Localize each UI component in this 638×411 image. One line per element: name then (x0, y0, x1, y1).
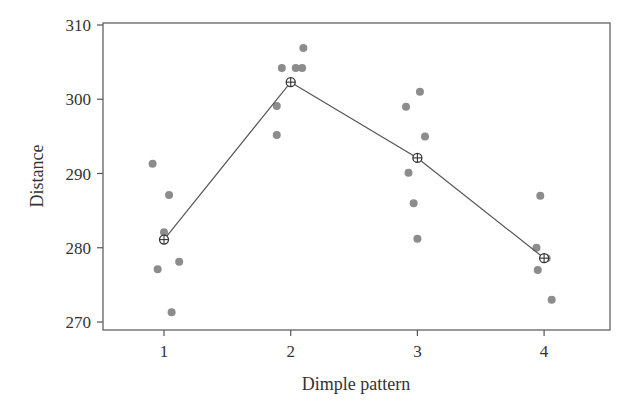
data-point (278, 64, 286, 72)
data-point (298, 64, 306, 72)
x-tick-label: 1 (160, 342, 169, 361)
mean-marker-icon (286, 78, 295, 87)
data-point (534, 266, 542, 274)
data-point (175, 258, 183, 266)
x-axis: 1234 (160, 330, 549, 361)
y-tick-label: 290 (66, 165, 92, 184)
x-tick-label: 3 (413, 342, 422, 361)
data-point (421, 132, 429, 140)
mean-marker-icon (413, 153, 422, 162)
data-point (416, 88, 424, 96)
data-point (410, 199, 418, 207)
plot-area-frame (103, 23, 610, 330)
y-tick-label: 280 (66, 239, 92, 258)
chart: 270280290300310 1234 Dimple pattern Dist… (0, 0, 638, 411)
data-point (405, 169, 413, 177)
data-point (273, 131, 281, 139)
data-point (548, 296, 556, 304)
mean-marker-icon (160, 235, 169, 244)
data-point (165, 191, 173, 199)
y-tick-label: 310 (66, 16, 92, 35)
x-axis-label: Dimple pattern (302, 374, 410, 394)
x-tick-label: 4 (540, 342, 549, 361)
data-point (402, 103, 410, 111)
data-point (299, 44, 307, 52)
data-point (154, 265, 162, 273)
mean-marker-icon (540, 254, 549, 263)
y-axis-label: Distance (27, 145, 47, 208)
data-point (536, 192, 544, 200)
y-axis: 270280290300310 (66, 16, 104, 332)
y-tick-label: 300 (66, 90, 92, 109)
y-tick-label: 270 (66, 313, 92, 332)
data-point (413, 235, 421, 243)
data-point (149, 160, 157, 168)
x-tick-label: 2 (286, 342, 295, 361)
data-point (168, 308, 176, 316)
